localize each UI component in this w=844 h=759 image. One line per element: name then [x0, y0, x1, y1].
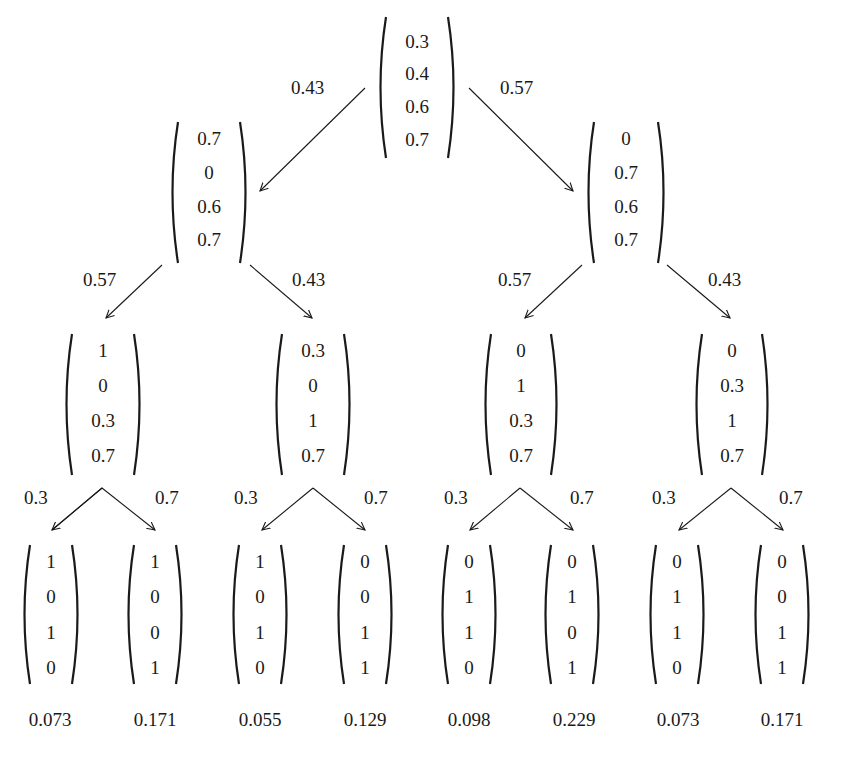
- edge-label: 0.7: [155, 488, 179, 508]
- vector-entry: 0.6: [166, 197, 252, 217]
- vector-entry: 0: [436, 658, 502, 678]
- vector-entry: 0: [539, 623, 605, 643]
- level2-vector-1: 1 0 0.3 0.7: [60, 332, 146, 477]
- edge-label: 0.3: [652, 488, 676, 508]
- vector-entry: 0.7: [690, 446, 774, 466]
- edge-label: 0.57: [500, 78, 533, 98]
- vector-entry: 1: [539, 658, 605, 678]
- vector-entry: 0: [60, 376, 146, 396]
- edge-l2c: [520, 488, 573, 530]
- level2-vector-4: 0 0.3 1 0.7: [690, 332, 774, 477]
- vector-entry: 0.7: [166, 129, 252, 149]
- level1-vector-left: 0.7 0 0.6 0.7: [166, 120, 252, 265]
- vector-entry: 1: [436, 587, 502, 607]
- vector-entry: 0: [227, 658, 293, 678]
- vector-entry: 0.3: [479, 411, 563, 431]
- vector-entry: 1: [122, 552, 188, 572]
- vector-entry: 0: [332, 552, 398, 572]
- vector-entry: 0: [270, 376, 356, 396]
- level2-vector-2: 0.3 0 1 0.7: [270, 332, 356, 477]
- vector-entry: 0.3: [690, 376, 774, 396]
- vector-entry: 0: [122, 623, 188, 643]
- edge-label: 0.57: [83, 270, 116, 290]
- vector-entry: 0: [227, 587, 293, 607]
- vector-entry: 0: [332, 587, 398, 607]
- edge-label: 0.7: [364, 488, 388, 508]
- vector-entry: 1: [18, 552, 84, 572]
- leaf-probability: 0.171: [737, 710, 827, 730]
- vector-entry: 1: [270, 411, 356, 431]
- vector-entry: 0: [18, 587, 84, 607]
- edge-label: 0.3: [24, 488, 48, 508]
- vector-entry: 1: [436, 623, 502, 643]
- leaf-probability: 0.171: [110, 710, 200, 730]
- vector-entry: 0.7: [582, 230, 670, 250]
- vector-entry: 1: [479, 376, 563, 396]
- leaf-probability: 0.129: [320, 710, 410, 730]
- vector-entry: 1: [749, 623, 815, 643]
- root-vector: 0.3 0.4 0.6 0.7: [374, 15, 460, 160]
- vector-entry: 0: [644, 658, 710, 678]
- edge-label: 0.3: [444, 488, 468, 508]
- vector-entry: 0: [166, 163, 252, 183]
- vector-entry: 0: [436, 552, 502, 572]
- vector-entry: 0.6: [374, 97, 460, 117]
- vector-entry: 0.7: [166, 230, 252, 250]
- edge-label: 0.43: [292, 270, 325, 290]
- vector-entry: 0: [539, 552, 605, 572]
- leaf-vector-3: 1 0 1 0: [227, 543, 293, 686]
- vector-entry: 0: [749, 587, 815, 607]
- vector-entry: 1: [749, 658, 815, 678]
- leaf-probability: 0.229: [529, 710, 619, 730]
- vector-entry: 0.3: [374, 32, 460, 52]
- level1-vector-right: 0 0.7 0.6 0.7: [582, 120, 670, 265]
- vector-entry: 0.7: [60, 446, 146, 466]
- vector-entry: 0: [582, 129, 670, 149]
- edge-label: 0.3: [234, 488, 258, 508]
- leaf-vector-7: 0 1 1 0: [644, 543, 710, 686]
- vector-entry: 0: [18, 658, 84, 678]
- vector-entry: 0.7: [374, 130, 460, 150]
- vector-entry: 0.3: [270, 341, 356, 361]
- vector-entry: 1: [18, 623, 84, 643]
- vector-entry: 0: [644, 552, 710, 572]
- vector-entry: 0.7: [270, 446, 356, 466]
- level2-vector-3: 0 1 0.3 0.7: [479, 332, 563, 477]
- leaf-probability: 0.098: [424, 710, 514, 730]
- leaf-probability: 0.055: [215, 710, 305, 730]
- edge-label: 0.43: [291, 78, 324, 98]
- vector-entry: 0: [749, 552, 815, 572]
- vector-entry: 1: [60, 341, 146, 361]
- vector-entry: 0.4: [374, 64, 460, 84]
- edge-l2d: [731, 488, 783, 530]
- leaf-vector-5: 0 1 1 0: [436, 543, 502, 686]
- vector-entry: 1: [332, 623, 398, 643]
- vector-entry: 0: [479, 341, 563, 361]
- leaf-vector-6: 0 1 0 1: [539, 543, 605, 686]
- vector-entry: 1: [227, 552, 293, 572]
- edge-l2a: [52, 488, 155, 530]
- vector-entry: 0: [690, 341, 774, 361]
- leaf-vector-8: 0 0 1 1: [749, 543, 815, 686]
- edge-label: 0.7: [779, 488, 803, 508]
- vector-entry: 1: [644, 623, 710, 643]
- vector-entry: 1: [690, 411, 774, 431]
- edge-label: 0.7: [570, 488, 594, 508]
- leaf-vector-2: 1 0 0 1: [122, 543, 188, 686]
- edge-root-left: [260, 88, 365, 191]
- vector-entry: 1: [539, 587, 605, 607]
- edge-l1b-left: [525, 265, 582, 318]
- vector-entry: 0.6: [582, 197, 670, 217]
- vector-entry: 0.3: [60, 411, 146, 431]
- leaf-vector-4: 0 0 1 1: [332, 543, 398, 686]
- edge-l2b: [313, 488, 365, 530]
- leaf-probability: 0.073: [5, 710, 95, 730]
- vector-entry: 1: [227, 623, 293, 643]
- vector-entry: 0.7: [582, 163, 670, 183]
- vector-entry: 0: [122, 587, 188, 607]
- vector-entry: 1: [122, 658, 188, 678]
- vector-entry: 1: [332, 658, 398, 678]
- leaf-vector-1: 1 0 1 0: [18, 543, 84, 686]
- edge-label: 0.43: [708, 270, 741, 290]
- vector-entry: 1: [644, 587, 710, 607]
